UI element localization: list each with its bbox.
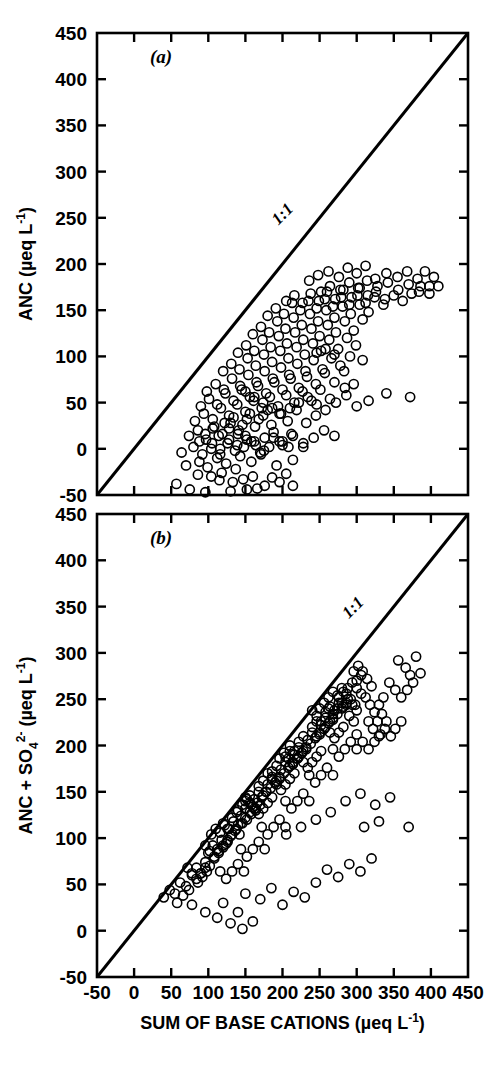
data-point [289,313,298,322]
x-tick-label: 300 [341,982,373,1003]
x-tick-label: 200 [267,982,299,1003]
panel-label-b: (b) [150,527,172,549]
data-point [429,272,438,281]
data-point [367,682,376,691]
data-point [356,789,365,798]
data-point [416,669,425,678]
data-point [311,815,320,824]
data-point [319,426,328,435]
data-point [330,378,339,387]
data-point [282,296,291,305]
data-point [248,917,257,926]
data-point [273,317,282,326]
y-tick-label: 300 [55,643,87,664]
y-tick-label: 100 [55,828,87,849]
data-point [283,416,292,425]
data-point [309,433,318,442]
data-point [325,335,334,344]
data-point [275,477,284,486]
y-tick-label: 250 [55,689,87,710]
reference-line-label: 1:1 [268,199,297,228]
data-point [227,359,236,368]
data-point [308,339,317,348]
data-point [276,363,285,372]
data-point [213,913,222,922]
x-tick-label: 250 [304,982,336,1003]
data-point [189,442,198,451]
y-tick-label: 350 [55,597,87,618]
data-point [293,359,302,368]
data-point [279,309,288,318]
y-tick-label: 400 [55,69,87,90]
x-tick-label: 150 [230,982,262,1003]
data-point [398,296,407,305]
data-point [284,442,293,451]
data-point [247,457,256,466]
data-point [282,339,291,348]
data-point [361,261,370,270]
data-point [251,361,260,370]
data-point [315,331,324,340]
data-point [394,656,403,665]
y-tick-label: 200 [55,254,87,275]
data-point [260,845,269,854]
data-point [379,693,388,702]
y-tick-label: 300 [55,162,87,183]
data-point [330,431,339,440]
data-point [241,889,250,898]
data-point [226,919,235,928]
data-point [265,328,274,337]
data-point [259,350,268,359]
data-point [345,352,354,361]
scatter-figure: -500501001502002503003504004501:1(a)-500… [0,0,499,1065]
x-tick-label: 450 [452,982,484,1003]
data-point [302,418,311,427]
data-point [181,461,190,470]
data-point [239,867,248,876]
data-point [288,481,297,490]
data-point [227,374,236,383]
data-point [297,320,306,329]
y-tick-label: 50 [66,393,87,414]
data-point [311,411,320,420]
data-point [342,333,351,342]
data-point [230,446,239,455]
data-point [266,343,275,352]
y-tick-label: 350 [55,115,87,136]
data-point [322,865,331,874]
data-point [382,269,391,278]
data-point [364,307,373,316]
data-point [274,331,283,340]
data-point [233,908,242,917]
data-point [351,341,360,350]
data-point [349,380,358,389]
x-tick-label: 350 [378,982,410,1003]
data-point [276,346,285,355]
data-point [258,335,267,344]
y-tick-label: 400 [55,550,87,571]
data-point [267,884,276,893]
data-point [268,357,277,366]
data-point [228,477,237,486]
data-point [352,269,361,278]
reference-line-1-1 [97,33,468,495]
data-point [403,267,412,276]
data-point [282,469,291,478]
data-point [260,433,269,442]
data-point [256,322,265,331]
data-point [352,402,361,411]
data-point [278,900,287,909]
data-point [300,350,309,359]
data-point [356,867,365,876]
data-point [330,313,339,322]
x-tick-label: 50 [161,982,182,1003]
data-point [367,854,376,863]
data-point [248,330,257,339]
y-tick-label: 250 [55,208,87,229]
data-point [190,416,199,425]
data-point [177,448,186,457]
data-point [314,270,323,279]
data-point [404,822,413,831]
data-point [242,485,251,494]
data-point [233,348,242,357]
